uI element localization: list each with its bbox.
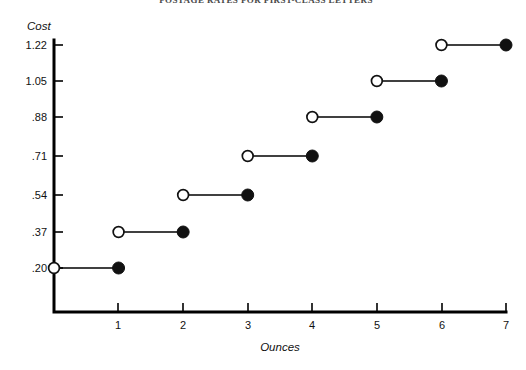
data-point-closed (113, 262, 125, 274)
data-point-open (371, 76, 382, 87)
data-point-closed (500, 39, 512, 51)
data-point-closed (435, 75, 447, 87)
x-axis-labels: 1 2 3 4 5 6 7 (115, 319, 509, 331)
step-function-series (49, 39, 512, 274)
data-point-open (49, 263, 60, 274)
x-label-5: 5 (374, 319, 380, 331)
chart-container: POSTAGE RATES FOR FIRST-CLASS LETTERS 1.… (0, 0, 526, 370)
y-label-0.88: .88 (32, 111, 47, 123)
x-label-6: 6 (439, 319, 445, 331)
data-point-closed (177, 226, 189, 238)
y-label-0.54: .54 (32, 189, 47, 201)
data-point-closed (371, 111, 383, 123)
x-axis-title: Ounces (260, 341, 300, 353)
x-label-4: 4 (309, 319, 315, 331)
data-point-closed (306, 150, 318, 162)
y-axis-labels: 1.22 1.05 .88 .71 .54 .37 .20 (26, 39, 47, 274)
y-label-0.71: .71 (32, 150, 47, 162)
y-label-0.20: .20 (32, 262, 47, 274)
x-label-7: 7 (503, 319, 509, 331)
y-axis-title: Cost (27, 20, 51, 32)
y-label-1.22: 1.22 (26, 39, 47, 51)
data-point-closed (242, 189, 254, 201)
data-point-open (178, 190, 189, 201)
data-point-open (307, 112, 318, 123)
y-label-0.37: .37 (32, 226, 47, 238)
x-label-2: 2 (180, 319, 186, 331)
data-point-open (436, 40, 447, 51)
x-label-1: 1 (115, 319, 121, 331)
x-label-3: 3 (245, 319, 251, 331)
step-chart-svg: 1.22 1.05 .88 .71 .54 .37 .20 Cost 1 2 3… (0, 0, 526, 370)
data-point-open (113, 227, 124, 238)
data-point-open (242, 151, 253, 162)
y-label-1.05: 1.05 (26, 75, 47, 87)
